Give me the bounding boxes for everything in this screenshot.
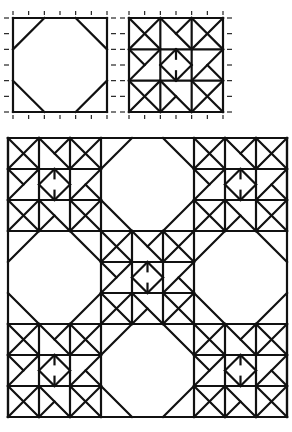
quilt-diagram <box>0 0 292 432</box>
octagon-block <box>4 11 116 119</box>
star-block <box>120 11 232 119</box>
assembled-quilt <box>8 138 287 417</box>
